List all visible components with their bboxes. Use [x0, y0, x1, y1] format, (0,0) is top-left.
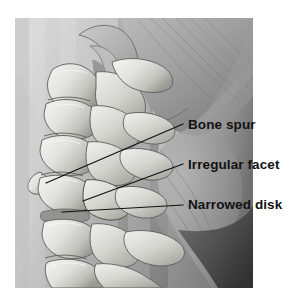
cervical-spine-figure: Bone spur Irregular facet Narrowed disk: [0, 0, 306, 299]
left-edge-vignette: [15, 18, 29, 288]
illustration-canvas: Bone spur Irregular facet Narrowed disk: [0, 0, 306, 299]
label-bone-spur: Bone spur: [188, 117, 256, 132]
anatomical-image: [15, 18, 253, 288]
label-irregular-facet: Irregular facet: [188, 157, 280, 172]
label-narrowed-disk: Narrowed disk: [188, 197, 283, 212]
